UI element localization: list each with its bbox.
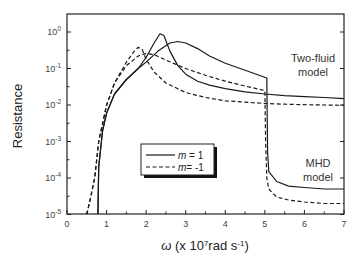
svg-text:model: model — [303, 171, 333, 183]
x-tick-label: 2 — [144, 219, 149, 229]
y-tick-label: 10-4 — [45, 171, 61, 183]
x-tick-label: 6 — [302, 219, 307, 229]
x-tick-label: 5 — [262, 219, 267, 229]
legend-entry-m-plus1: m = 1 — [178, 150, 204, 161]
x-tick-label: 7 — [341, 219, 346, 229]
y-tick-label: 10-5 — [45, 208, 61, 220]
y-axis-title: Resistance — [10, 84, 25, 148]
y-tick-label: 10-1 — [45, 62, 61, 74]
x-tick-label: 4 — [223, 219, 228, 229]
legend: m = 1 m= -1 — [141, 144, 217, 178]
x-tick-label: 3 — [183, 219, 188, 229]
y-tick-label: 10-3 — [45, 135, 61, 147]
y-tick-label: 10-2 — [45, 98, 61, 110]
x-tick-label: 1 — [104, 219, 109, 229]
legend-entry-m-minus1: m= -1 — [178, 162, 204, 173]
svg-text:model: model — [298, 66, 328, 78]
x-tick-label: 0 — [64, 219, 69, 229]
x-axis-title: ω (x 107rad s-1) — [161, 238, 248, 253]
svg-text:MHD: MHD — [305, 157, 330, 169]
resistance-chart: 10010-110-210-310-410-5 01234567 Resista… — [0, 0, 364, 265]
annotation-two-fluid: Two-fluid model — [291, 52, 335, 78]
svg-text:Two-fluid: Two-fluid — [291, 52, 335, 64]
plot-frame — [67, 14, 344, 214]
y-tick-label: 100 — [47, 25, 61, 37]
x-axis-ticks: 01234567 — [64, 210, 346, 229]
annotation-mhd: MHD model — [303, 157, 333, 183]
